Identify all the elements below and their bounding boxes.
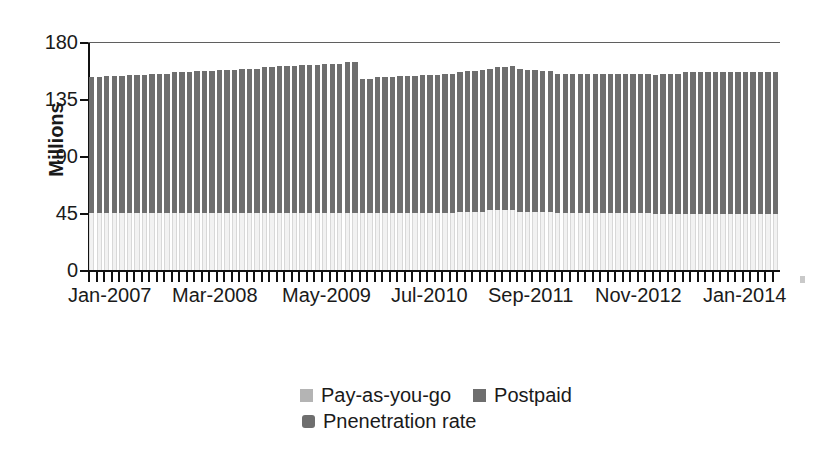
bar-segment-postpaid <box>608 74 613 213</box>
bar-segment-pay-as-you-go <box>202 213 207 270</box>
legend-item-penetration-rate[interactable]: Pnenetration rate <box>302 410 476 433</box>
bar-column <box>516 42 524 270</box>
bar-segment-pay-as-you-go <box>653 214 658 270</box>
bar-segment-pay-as-you-go <box>194 213 199 270</box>
bar-stack <box>97 42 102 270</box>
bar-column <box>186 42 194 270</box>
bar-column <box>742 42 750 270</box>
bar-column <box>689 42 697 270</box>
bar-stack <box>187 42 192 270</box>
bar-segment-pay-as-you-go <box>728 214 733 270</box>
bar-stack <box>487 42 492 270</box>
y-tick-label-180: 180 <box>30 32 78 52</box>
scan-artifact-mark <box>800 276 805 283</box>
bar-stack <box>555 42 560 270</box>
legend-item-pay-as-you-go[interactable]: Pay-as-you-go <box>300 384 451 407</box>
bar-segment-postpaid <box>284 66 289 213</box>
bar-segment-pay-as-you-go <box>262 213 267 270</box>
bar-stack <box>623 42 628 270</box>
bar-segment-pay-as-you-go <box>487 210 492 270</box>
bar-stack <box>254 42 259 270</box>
bar-stack <box>119 42 124 270</box>
legend-item-postpaid[interactable]: Postpaid <box>473 384 572 407</box>
bar-stack <box>164 42 169 270</box>
x-axis-tick <box>682 272 690 282</box>
bar-column <box>614 42 622 270</box>
x-axis-tick <box>246 272 254 282</box>
bar-segment-pay-as-you-go <box>743 214 748 270</box>
chart-figure: Millions 180 135 90 45 0 Jan-2007 Mar-20… <box>0 0 818 456</box>
x-axis-tick <box>186 272 194 282</box>
bar-segment-pay-as-you-go <box>157 213 162 270</box>
x-axis-tick <box>531 272 539 282</box>
x-tick-label-jan-2014: Jan-2014 <box>703 284 786 307</box>
bar-segment-pay-as-you-go <box>232 213 237 270</box>
bar-segment-pay-as-you-go <box>502 210 507 270</box>
bar-segment-pay-as-you-go <box>89 213 94 270</box>
bar-stack <box>390 42 395 270</box>
x-axis-tick <box>298 272 306 282</box>
bar-column <box>411 42 419 270</box>
bar-segment-postpaid <box>322 64 327 213</box>
bar-stack <box>563 42 568 270</box>
bar-column <box>441 42 449 270</box>
bar-segment-postpaid <box>232 70 237 213</box>
bar-segment-postpaid <box>307 65 312 213</box>
bar-segment-postpaid <box>630 74 635 213</box>
bar-stack <box>585 42 590 270</box>
bar-stack <box>284 42 289 270</box>
y-tick-label-45: 45 <box>30 203 78 223</box>
bar-segment-pay-as-you-go <box>217 213 222 270</box>
bar-segment-pay-as-you-go <box>660 214 665 270</box>
bar-segment-postpaid <box>645 74 650 213</box>
x-axis-tick <box>208 272 216 282</box>
bar-column <box>577 42 585 270</box>
bar-segment-postpaid <box>457 72 462 211</box>
bar-segment-pay-as-you-go <box>683 214 688 270</box>
bar-segment-pay-as-you-go <box>104 213 109 270</box>
bar-segment-pay-as-you-go <box>555 213 560 270</box>
bar-stack <box>89 42 94 270</box>
bar-stack <box>608 42 613 270</box>
bar-segment-pay-as-you-go <box>277 213 282 270</box>
bar-segment-postpaid <box>593 74 598 213</box>
bar-column <box>133 42 141 270</box>
legend-swatch-icon-postpaid <box>473 389 486 402</box>
x-axis-tick <box>344 272 352 282</box>
bar-column <box>682 42 690 270</box>
bar-column <box>652 42 660 270</box>
bar-segment-pay-as-you-go <box>119 213 124 270</box>
bar-segment-pay-as-you-go <box>307 213 312 270</box>
x-axis-tick <box>216 272 224 282</box>
bar-column <box>674 42 682 270</box>
bar-segment-postpaid <box>104 76 109 213</box>
bar-column <box>261 42 269 270</box>
bar-column <box>359 42 367 270</box>
bar-stack <box>179 42 184 270</box>
bar-stack <box>157 42 162 270</box>
bar-segment-postpaid <box>269 67 274 213</box>
x-axis-tick <box>148 272 156 282</box>
bar-stack <box>578 42 583 270</box>
bar-segment-postpaid <box>735 72 740 214</box>
bar-segment-postpaid <box>750 72 755 214</box>
bar-stack <box>735 42 740 270</box>
bar-column <box>216 42 224 270</box>
bar-stack <box>750 42 755 270</box>
bar-segment-postpaid <box>638 74 643 213</box>
x-axis-tick <box>689 272 697 282</box>
bar-segment-postpaid <box>172 72 177 213</box>
bar-segment-pay-as-you-go <box>292 213 297 270</box>
x-axis-tick <box>306 272 314 282</box>
bar-column <box>719 42 727 270</box>
bar-segment-pay-as-you-go <box>142 213 147 270</box>
x-tick-label-may-2009: May-2009 <box>282 284 371 307</box>
bar-segment-postpaid <box>427 75 432 213</box>
bar-segment-postpaid <box>773 72 778 214</box>
bar-segment-pay-as-you-go <box>330 213 335 270</box>
bar-column <box>156 42 164 270</box>
bar-column <box>749 42 757 270</box>
bar-segment-pay-as-you-go <box>397 213 402 270</box>
x-axis-tick <box>193 272 201 282</box>
bar-segment-postpaid <box>472 71 477 212</box>
